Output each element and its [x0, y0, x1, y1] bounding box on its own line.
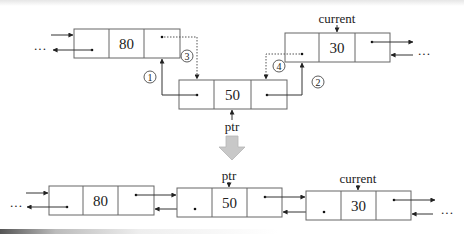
step-2-label: 2 — [316, 77, 321, 88]
node-80-before: 80 — [74, 29, 180, 58]
node-80-value: 80 — [119, 36, 134, 52]
ellipsis-left-before: ··· — [34, 41, 47, 56]
ptr-label-before: ptr — [225, 119, 240, 134]
ellipsis-right-before: ··· — [418, 46, 431, 61]
node-30-after-value: 30 — [351, 198, 366, 214]
step-3-label: 3 — [185, 51, 190, 62]
node-30-value: 30 — [330, 40, 345, 56]
step-1-label: 1 — [148, 72, 153, 83]
before-state: 80 ··· 50 30 — [34, 11, 431, 134]
node-80-after-value: 80 — [93, 193, 108, 209]
node-30-after: 30 — [306, 191, 411, 220]
node-50-after: 50 — [177, 188, 282, 217]
ptr-label-after: ptr — [222, 168, 237, 183]
node-50-after-value: 50 — [222, 195, 237, 211]
bottom-shadow — [0, 229, 464, 234]
ellipsis-left-after: ··· — [10, 198, 23, 213]
after-state: 80 ··· 50 ptr — [10, 168, 454, 220]
current-label-before: current — [319, 11, 356, 26]
node-80-after: 80 — [49, 186, 154, 215]
step-4-label: 4 — [277, 61, 282, 72]
ellipsis-right-after: ··· — [441, 205, 454, 220]
node-30-before: 30 — [285, 33, 390, 62]
node-50-value: 50 — [225, 87, 240, 103]
diagram-svg: 80 ··· 50 30 — [0, 0, 464, 234]
doubly-linked-list-insertion-diagram: 80 ··· 50 30 — [0, 0, 464, 234]
transition-down-arrow-icon — [219, 136, 245, 160]
current-label-after: current — [340, 171, 377, 186]
